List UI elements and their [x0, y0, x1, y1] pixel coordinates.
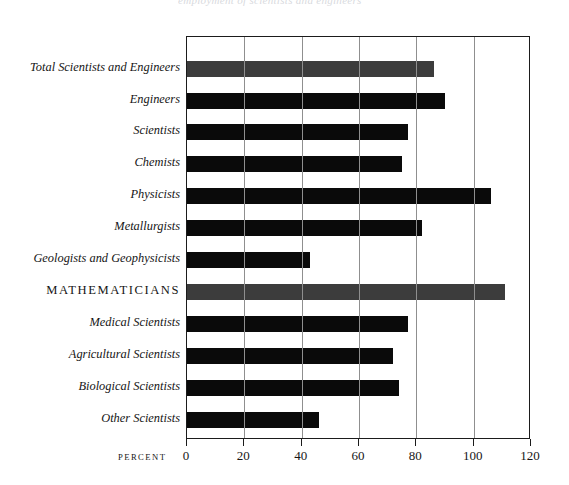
clipped-title: employment of scientists and engineers — [178, 0, 478, 6]
bar — [187, 93, 445, 109]
bar-chart-figure: employment of scientists and engineers T… — [0, 0, 569, 485]
gridline-100 — [474, 37, 475, 438]
category-axis-labels: Total Scientists and EngineersEngineersS… — [0, 36, 180, 439]
gridline-20 — [244, 37, 245, 438]
category-label: Medical Scientists — [0, 315, 180, 329]
category-label: MATHEMATICIANS — [0, 283, 180, 297]
x-axis-ticks — [186, 439, 530, 447]
tick-40 — [301, 439, 302, 446]
category-label: Agricultural Scientists — [0, 347, 180, 361]
tick-0 — [186, 439, 187, 446]
tick-label-40: 40 — [294, 448, 307, 464]
category-label: Scientists — [0, 123, 180, 137]
category-label: Metallurgists — [0, 219, 180, 233]
category-label: Total Scientists and Engineers — [0, 60, 180, 74]
bar — [187, 124, 408, 140]
bar — [187, 316, 408, 332]
tick-label-60: 60 — [352, 448, 365, 464]
tick-80 — [415, 439, 416, 446]
tick-60 — [358, 439, 359, 446]
bar — [187, 61, 434, 77]
bar-rows — [187, 37, 529, 438]
x-axis-tick-labels: 020406080100120 — [0, 448, 569, 468]
bar — [187, 284, 505, 300]
tick-20 — [243, 439, 244, 446]
tick-label-100: 100 — [463, 448, 483, 464]
bar — [187, 380, 399, 396]
tick-100 — [473, 439, 474, 446]
tick-label-20: 20 — [237, 448, 250, 464]
category-label: Biological Scientists — [0, 379, 180, 393]
bar — [187, 252, 310, 268]
category-label: Other Scientists — [0, 411, 180, 425]
gridline-80 — [416, 37, 417, 438]
x-axis-title: percent — [118, 452, 166, 462]
plot-area — [186, 36, 530, 439]
tick-120 — [530, 439, 531, 446]
gridline-60 — [359, 37, 360, 438]
tick-label-0: 0 — [183, 448, 190, 464]
bar — [187, 220, 422, 236]
bar — [187, 188, 491, 204]
category-label: Geologists and Geophysicists — [0, 251, 180, 265]
category-label: Engineers — [0, 92, 180, 106]
category-label: Chemists — [0, 155, 180, 169]
tick-label-120: 120 — [520, 448, 540, 464]
gridline-40 — [302, 37, 303, 438]
bar — [187, 348, 393, 364]
bar — [187, 156, 402, 172]
category-label: Physicists — [0, 187, 180, 201]
tick-label-80: 80 — [409, 448, 422, 464]
bar — [187, 412, 319, 428]
